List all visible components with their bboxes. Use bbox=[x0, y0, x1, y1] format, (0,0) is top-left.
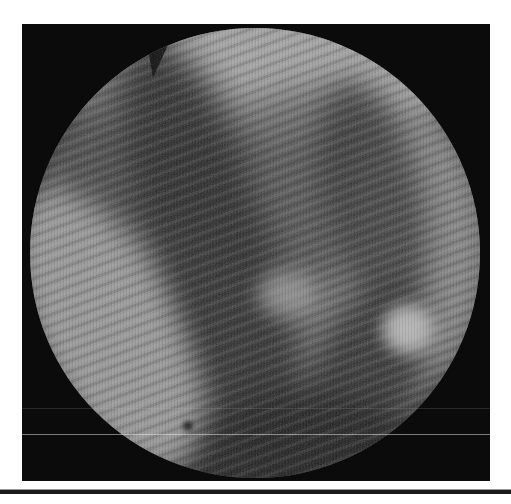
scan-artifact-line-faint bbox=[22, 408, 490, 409]
photo-frame bbox=[22, 24, 490, 481]
endoscope-view bbox=[30, 28, 480, 478]
scan-artifact-line bbox=[22, 434, 490, 435]
film-grain-overlay bbox=[30, 28, 480, 478]
page-rule bbox=[0, 489, 511, 494]
page-background bbox=[0, 0, 511, 504]
